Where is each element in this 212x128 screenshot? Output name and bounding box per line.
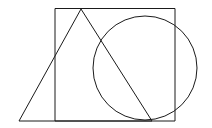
figure-background bbox=[0, 0, 212, 128]
geometry-figure-canvas: Overlapping geometric shapes A square, a… bbox=[0, 0, 212, 128]
